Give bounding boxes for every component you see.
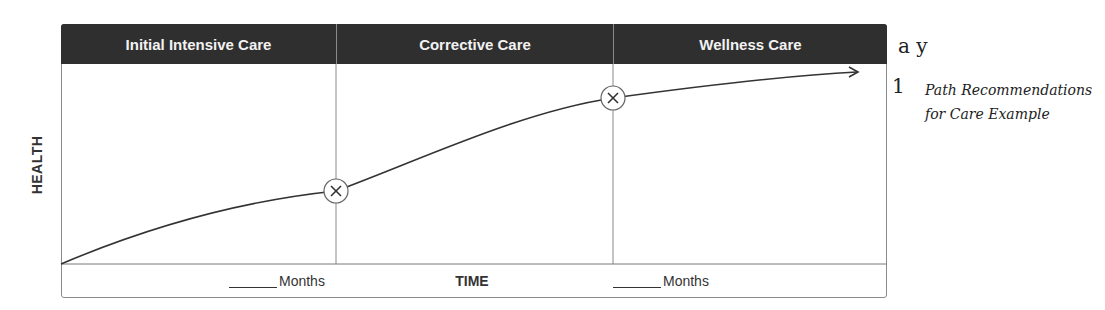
health-curve-chart (0, 0, 1105, 310)
y-axis-label: HEALTH (29, 136, 45, 195)
figure-caption: Path Recommendations for Care Example (925, 78, 1105, 126)
fill-in-blank (229, 275, 277, 288)
health-curve (61, 72, 857, 264)
circled-x-icon (601, 86, 625, 110)
figure-number: 1 (892, 74, 905, 98)
duration-unit: Months (279, 273, 325, 289)
side-text-fragment: a y (898, 34, 928, 58)
duration-label-initial: Months (229, 264, 325, 298)
duration-label-corrective: Months (613, 264, 709, 298)
fill-in-blank (613, 275, 661, 288)
circled-x-icon (324, 179, 348, 203)
x-axis-label: TIME (440, 264, 504, 298)
duration-unit: Months (663, 273, 709, 289)
